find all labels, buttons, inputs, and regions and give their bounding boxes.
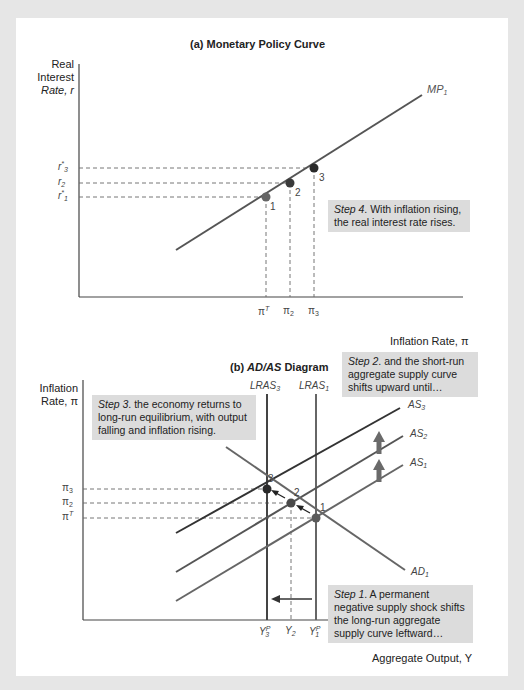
y-label-line: Rate, π [20, 395, 78, 408]
tick-r2: r2 [58, 176, 65, 188]
step2-annotation: Step 2. and the short-run aggregate supp… [342, 352, 478, 397]
tick-pi-t: πT [258, 305, 269, 317]
lras3-label: LRAS3 [250, 380, 280, 392]
as1-curve [176, 465, 403, 601]
ad1-label: AD1 [411, 566, 429, 578]
point-b2 [287, 499, 296, 508]
tick-r1: r*1 [58, 189, 68, 202]
tick-r3: r*3 [58, 160, 68, 173]
y-label-line: Real [20, 58, 74, 71]
point-a2-label: 2 [295, 187, 301, 198]
panel-a-title: (a) Monetary Policy Curve [190, 38, 325, 51]
up-arrow-icon [373, 459, 385, 482]
point-b3-label: 3 [268, 473, 274, 484]
point-a1-label: 1 [270, 201, 276, 212]
as1-label: AS1 [410, 457, 427, 469]
mp-curve-label: MP1 [427, 83, 447, 99]
as3-label: AS3 [408, 399, 425, 411]
point-b1 [312, 514, 321, 523]
tick-y1p: YP1 [309, 625, 319, 638]
up-arrow-icon [373, 431, 385, 454]
tick-y2: Y2 [285, 625, 296, 637]
panel-b-x-axis-label: Aggregate Output, Y [372, 652, 472, 665]
lras1-label: LRAS1 [299, 380, 329, 392]
y-label-line: Interest [20, 71, 74, 84]
point-b3 [263, 485, 272, 494]
as2-label: AS2 [410, 428, 427, 440]
point-a3-label: 3 [319, 172, 325, 183]
point-a2 [286, 179, 295, 188]
panel-b-title: (b) AD/AS Diagram [230, 361, 328, 374]
panel-a-x-axis-label: Inflation Rate, π [390, 335, 469, 348]
left-arrow-icon [271, 595, 312, 603]
tick-b-pi-t: πT [62, 510, 73, 522]
tick-b-pi3: π3 [62, 482, 73, 494]
point-b1-label: 1 [320, 502, 326, 513]
panel-a-guides [79, 168, 314, 297]
step1-annotation: Step 1. A permanent negative supply shoc… [328, 585, 473, 643]
step4-annotation: Step 4. With inflation rising, the real … [328, 200, 470, 232]
step3-annotation: Step 3. the economy returns to long-run … [92, 395, 256, 440]
panel-a-y-axis-label: Real Interest Rate, r [20, 58, 74, 97]
path-arrow-icon [271, 490, 285, 498]
tick-y3p: YP3 [259, 625, 269, 638]
tick-pi2: π2 [283, 305, 294, 317]
tick-pi3: π3 [308, 305, 319, 317]
path-arrow-icon [296, 505, 310, 513]
point-a3 [310, 164, 319, 173]
panel-a-axes [79, 64, 463, 297]
point-b2-label: 2 [294, 487, 300, 498]
y-label-line: Inflation [20, 382, 78, 395]
tick-b-pi2: π2 [62, 496, 73, 508]
y-label-line: Rate, r [20, 84, 74, 97]
panel-b-y-axis-label: Inflation Rate, π [20, 382, 78, 408]
